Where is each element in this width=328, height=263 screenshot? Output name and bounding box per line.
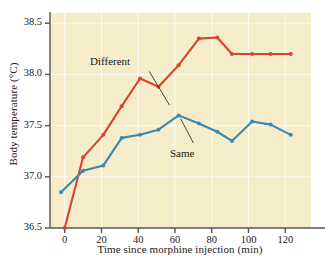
- x-tick-label: 100: [229, 234, 269, 245]
- x-axis-ticks: 020406080100120: [0, 0, 328, 263]
- x-tick-label: 120: [265, 234, 305, 245]
- series-label-different: Different: [90, 55, 130, 67]
- x-tick-label: 20: [81, 234, 121, 245]
- x-tick-label: 60: [155, 234, 195, 245]
- x-tick-label: 0: [45, 234, 85, 245]
- x-tick-label: 40: [118, 234, 158, 245]
- x-tick-label: 80: [192, 234, 232, 245]
- chart-figure: Body temperature (°C) Time since morphin…: [0, 0, 328, 263]
- series-label-same: Same: [170, 147, 194, 159]
